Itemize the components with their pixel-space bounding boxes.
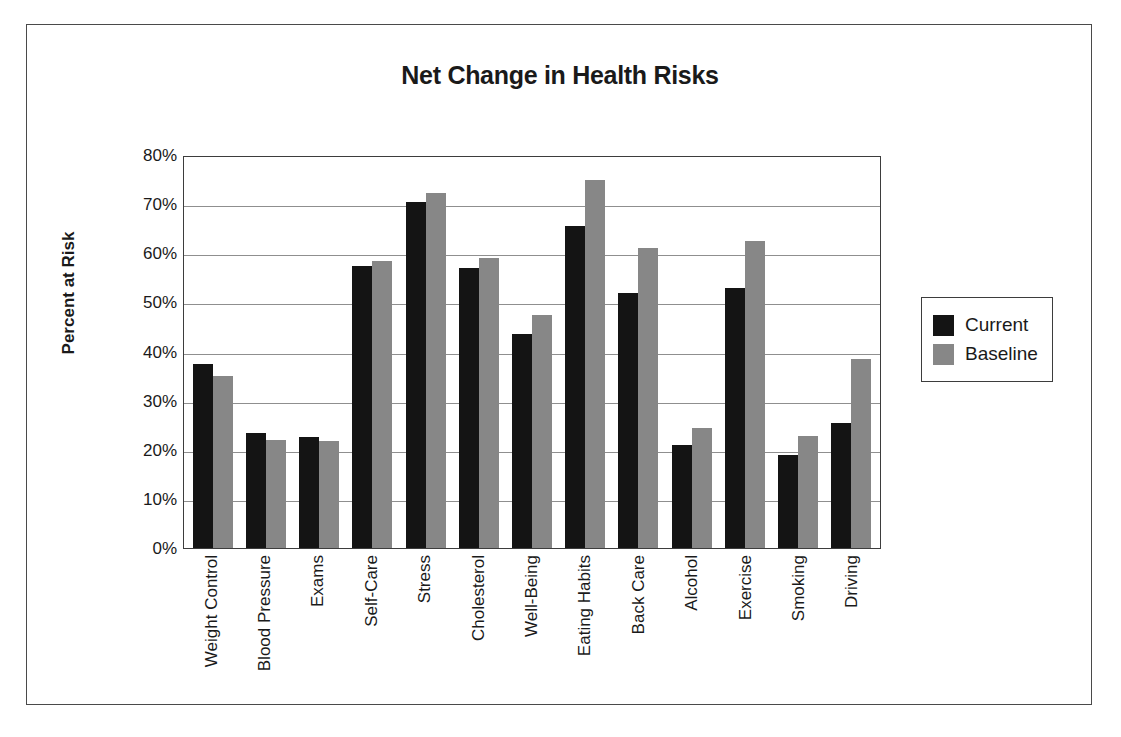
x-axis-tick-label: Self-Care	[362, 555, 382, 627]
legend-label: Baseline	[965, 343, 1038, 365]
bar-group	[612, 157, 665, 548]
x-axis-tick-label-cell: Blood Pressure	[238, 551, 291, 701]
bar-current[interactable]	[299, 437, 319, 548]
x-axis-tick-label-cell: Eating Habits	[559, 551, 612, 701]
x-axis-tick-label: Exercise	[736, 555, 756, 620]
x-axis-tick-label: Back Care	[629, 555, 649, 634]
bar-group	[772, 157, 825, 548]
bar-group	[505, 157, 558, 548]
y-axis-tick-label: 40%	[107, 343, 177, 363]
y-axis-tick-label: 80%	[107, 146, 177, 166]
chart-title: Net Change in Health Risks	[27, 61, 1093, 90]
y-axis-tick-label: 10%	[107, 490, 177, 510]
bar-group	[399, 157, 452, 548]
x-axis-tick-label-cell: Exams	[292, 551, 345, 701]
x-axis-tick-label: Alcohol	[682, 555, 702, 611]
x-axis-tick-label-cell: Smoking	[772, 551, 825, 701]
x-axis-tick-label: Smoking	[789, 555, 809, 621]
legend-swatch-icon	[933, 315, 954, 336]
legend-swatch-icon	[933, 344, 954, 365]
x-axis-tick-label: Blood Pressure	[255, 555, 275, 671]
bar-baseline[interactable]	[319, 441, 339, 548]
y-axis-tick-label: 60%	[107, 244, 177, 264]
bar-group	[718, 157, 771, 548]
bar-current[interactable]	[512, 334, 532, 548]
y-axis-tick-label: 30%	[107, 392, 177, 412]
x-axis-tick-label: Exams	[308, 555, 328, 607]
x-axis-tick-labels: Weight ControlBlood PressureExamsSelf-Ca…	[183, 551, 881, 701]
y-axis-tick-labels: 80%70%60%50%40%30%20%10%0%	[95, 156, 177, 549]
bar-group	[452, 157, 505, 548]
bar-group	[186, 157, 239, 548]
x-axis-tick-label-cell: Stress	[399, 551, 452, 701]
legend-item[interactable]: Baseline	[933, 343, 1038, 365]
x-axis-tick-label: Well-Being	[522, 555, 542, 637]
bar-current[interactable]	[725, 288, 745, 548]
legend-label: Current	[965, 314, 1028, 336]
bars-layer	[184, 157, 880, 548]
chart-legend: CurrentBaseline	[921, 297, 1053, 382]
x-axis-tick-label: Cholesterol	[469, 555, 489, 641]
x-axis-tick-label-cell: Alcohol	[666, 551, 719, 701]
x-axis-tick-label-cell: Back Care	[612, 551, 665, 701]
bar-current[interactable]	[672, 445, 692, 548]
bar-current[interactable]	[565, 226, 585, 548]
x-axis-tick-label-cell: Self-Care	[345, 551, 398, 701]
bar-group	[239, 157, 292, 548]
x-axis-tick-label: Weight Control	[202, 555, 222, 667]
bar-group	[825, 157, 878, 548]
y-axis-title: Percent at Risk	[59, 193, 79, 393]
x-axis-tick-label-cell: Weight Control	[185, 551, 238, 701]
x-axis-tick-label-cell: Exercise	[719, 551, 772, 701]
x-axis-tick-label-cell: Well-Being	[505, 551, 558, 701]
bar-current[interactable]	[778, 455, 798, 548]
bar-current[interactable]	[618, 293, 638, 548]
x-axis-tick-label: Eating Habits	[575, 555, 595, 656]
bar-baseline[interactable]	[213, 376, 233, 548]
bar-baseline[interactable]	[745, 241, 765, 548]
bar-baseline[interactable]	[851, 359, 871, 548]
bar-baseline[interactable]	[798, 436, 818, 548]
chart-frame: Net Change in Health Risks Percent at Ri…	[26, 24, 1092, 705]
bar-baseline[interactable]	[585, 180, 605, 548]
bar-current[interactable]	[406, 202, 426, 548]
bar-baseline[interactable]	[532, 315, 552, 548]
bar-current[interactable]	[352, 266, 372, 548]
y-axis-tick-label: 0%	[107, 539, 177, 559]
bar-baseline[interactable]	[692, 428, 712, 548]
x-axis-tick-label: Driving	[842, 555, 862, 608]
y-axis-tick-label: 20%	[107, 441, 177, 461]
x-axis-tick-label-cell: Cholesterol	[452, 551, 505, 701]
bar-current[interactable]	[193, 364, 213, 548]
legend-item[interactable]: Current	[933, 314, 1038, 336]
y-axis-tick-label: 50%	[107, 293, 177, 313]
bar-baseline[interactable]	[638, 248, 658, 548]
bar-baseline[interactable]	[372, 261, 392, 548]
bar-baseline[interactable]	[266, 440, 286, 548]
bar-group	[665, 157, 718, 548]
bar-group	[559, 157, 612, 548]
bar-baseline[interactable]	[426, 193, 446, 548]
bar-current[interactable]	[246, 433, 266, 548]
x-axis-tick-label-cell: Driving	[826, 551, 879, 701]
x-axis-tick-label: Stress	[415, 555, 435, 603]
y-axis-tick-label: 70%	[107, 195, 177, 215]
bar-baseline[interactable]	[479, 258, 499, 548]
plot-area	[183, 156, 881, 549]
bar-group	[346, 157, 399, 548]
bar-group	[292, 157, 345, 548]
bar-current[interactable]	[459, 268, 479, 548]
bar-current[interactable]	[831, 423, 851, 548]
